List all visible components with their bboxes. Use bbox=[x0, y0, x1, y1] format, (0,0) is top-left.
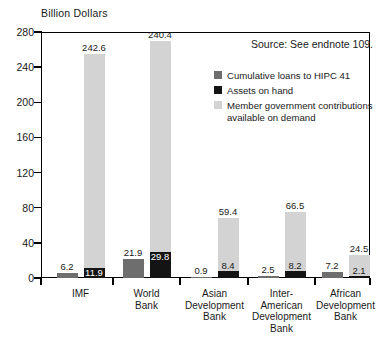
legend-swatch-hipc-icon bbox=[214, 71, 222, 79]
bar-value-label: 66.5 bbox=[274, 201, 316, 211]
legend-item: Assets on hand bbox=[214, 85, 373, 97]
legend-item: Cumulative loans to HIPC 41 bbox=[214, 70, 373, 82]
bar-value-label: 240.4 bbox=[139, 30, 181, 40]
chart-legend: Cumulative loans to HIPC 41Assets on han… bbox=[214, 70, 373, 127]
bar-segment-hipc bbox=[258, 276, 279, 278]
legend-label: Cumulative loans to HIPC 41 bbox=[227, 70, 350, 82]
y-axis-tick bbox=[34, 31, 42, 32]
y-axis-tick-label: 40 bbox=[0, 238, 34, 249]
x-axis-tick bbox=[112, 278, 113, 285]
y-axis-tick-label: 120 bbox=[0, 167, 34, 178]
y-axis-tick bbox=[34, 242, 42, 243]
bar-value-label: 29.8 bbox=[139, 252, 181, 262]
bar-segment-assets bbox=[285, 271, 306, 278]
y-axis-tick bbox=[34, 207, 42, 208]
bar-value-label: 242.6 bbox=[73, 43, 115, 53]
x-axis-tick bbox=[247, 278, 248, 285]
bar-segment-assets bbox=[349, 276, 370, 278]
source-note: Source: See endnote 109. bbox=[251, 38, 373, 50]
y-axis-tick-label: 240 bbox=[0, 62, 34, 73]
x-axis-tick bbox=[179, 278, 180, 285]
y-axis-tick bbox=[34, 66, 42, 67]
bar-value-label: 8.2 bbox=[274, 261, 316, 271]
bar-value-label: 11.9 bbox=[73, 268, 115, 278]
y-axis-tick bbox=[34, 172, 42, 173]
y-axis-tick-label: 0 bbox=[0, 273, 34, 284]
y-axis-tick bbox=[34, 137, 42, 138]
bar-value-label: 24.5 bbox=[338, 244, 380, 254]
y-axis-tick-label: 80 bbox=[0, 202, 34, 213]
y-axis-title: Billion Dollars bbox=[41, 7, 108, 19]
legend-swatch-member-icon bbox=[214, 101, 222, 109]
x-axis-tick bbox=[40, 278, 41, 285]
legend-label: Member government contributions availabl… bbox=[227, 100, 373, 123]
y-axis-tick bbox=[34, 102, 42, 103]
bar-segment-assets bbox=[218, 271, 239, 278]
legend-swatch-assets-icon bbox=[214, 86, 222, 94]
legend-item: Member government contributions availabl… bbox=[214, 100, 373, 123]
y-axis-tick-label: 160 bbox=[0, 132, 34, 143]
bar-segment-hipc bbox=[191, 277, 212, 278]
bar-chart: Billion Dollars 04080120160200240280 6.2… bbox=[0, 0, 387, 338]
x-axis-category-label: African Development Bank bbox=[306, 288, 386, 323]
x-axis-tick bbox=[369, 278, 370, 285]
bar-value-label: 2.1 bbox=[338, 266, 380, 276]
y-axis-tick-label: 200 bbox=[0, 97, 34, 108]
x-axis-tick bbox=[314, 278, 315, 285]
bar-segment-member bbox=[84, 54, 105, 267]
bar-value-label: 59.4 bbox=[207, 207, 249, 217]
y-axis-tick-label: 280 bbox=[0, 27, 34, 38]
bar-segment-member bbox=[150, 41, 171, 252]
legend-label: Assets on hand bbox=[227, 85, 293, 97]
bar-value-label: 8.4 bbox=[207, 261, 249, 271]
